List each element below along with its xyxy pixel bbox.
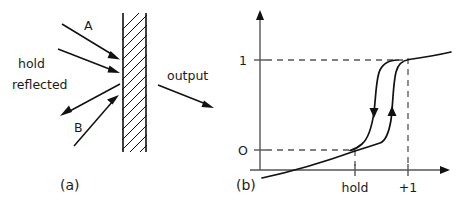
panel-a: A hold reflected B [12,2,214,193]
y-axis [256,10,264,170]
reflected-beam-label: reflected [12,77,68,92]
curve-downward-sweep [350,60,398,151]
output-beam-arrow [158,85,214,108]
beam-b-label: B [74,120,83,135]
beam-a-label: A [84,18,93,33]
x-axis-label-plus-one: +1 [399,180,417,195]
x-axis [250,166,450,174]
curve-upward-sweep [262,52,451,178]
x-axis-label-hold: hold [342,180,369,195]
panel-b: 1 O hold +1 (b) [236,10,451,195]
figure-canvas: A hold reflected B [0,0,468,207]
panel-a-caption: (a) [60,177,80,193]
y-axis-label-one: 1 [239,53,247,68]
output-beam-label: output [167,68,208,83]
up-branch-arrowhead [388,106,397,116]
figure-root: A hold reflected B [0,0,468,207]
nonlinear-etalon-slab [122,2,150,190]
down-branch-arrowhead [370,108,379,118]
panel-b-caption: (b) [236,177,256,193]
hold-beam-label: hold [18,56,45,71]
y-axis-label-zero: O [238,143,248,158]
